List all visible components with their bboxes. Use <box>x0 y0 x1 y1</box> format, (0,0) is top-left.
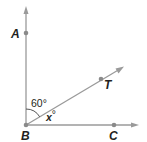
label-t: T <box>104 78 113 92</box>
point-c <box>112 123 117 128</box>
arrowhead-icon <box>131 123 139 128</box>
point-a <box>24 31 29 36</box>
ray-bc <box>26 123 139 128</box>
label-c: C <box>109 129 118 142</box>
arrowhead-icon <box>116 67 125 74</box>
angle-label-x: x° <box>45 108 56 123</box>
point-b <box>24 123 29 128</box>
ray-bt <box>26 67 124 126</box>
angle-arc-abt <box>26 109 40 117</box>
arrowhead-icon <box>24 6 29 14</box>
ray-ba <box>24 6 29 125</box>
point-t <box>99 77 104 82</box>
label-b: B <box>21 129 30 142</box>
angle-diagram: A T C B 60° x° <box>0 0 147 142</box>
angle-label-60: 60° <box>31 97 47 109</box>
label-a: A <box>10 27 20 41</box>
